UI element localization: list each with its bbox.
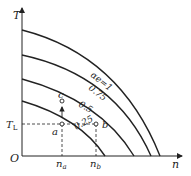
torque-speed-diagram: T n O TL na nb a b c αe=1 0.75 0.5 0.25 — [0, 0, 191, 176]
origin-label: O — [10, 152, 19, 165]
curve-label-0-5: 0.5 — [77, 99, 95, 115]
curve-0-5 — [22, 79, 134, 156]
y-axis-label: T — [13, 9, 22, 22]
curve-label-0-25: 0.25 — [72, 113, 95, 131]
nb-label: nb — [90, 158, 101, 171]
point-c-label: c — [58, 89, 64, 100]
point-a — [60, 122, 64, 126]
point-b-label: b — [102, 119, 108, 130]
na-label: na — [56, 158, 67, 171]
tl-label: TL — [6, 119, 18, 132]
point-a-label: a — [52, 126, 58, 137]
x-axis-label: n — [172, 158, 179, 171]
point-b — [94, 122, 98, 126]
